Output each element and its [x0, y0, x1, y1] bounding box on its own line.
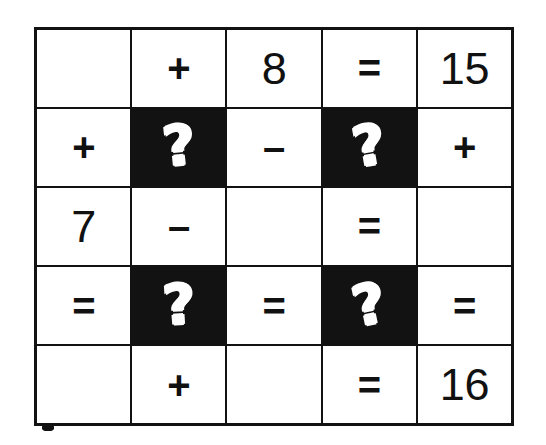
cell-content-r4c3: = [227, 267, 320, 344]
cell-content-r5c5: 16 [418, 346, 511, 423]
cell-content-r4c4: ? [323, 267, 416, 344]
cell-content-r2c5: + [418, 109, 511, 186]
cell-content-r2c3: – [227, 109, 320, 186]
grid-cell-r3c2[interactable]: – [131, 187, 226, 266]
cell-value-r1c3: 8 [262, 46, 287, 91]
grid-cell-r4c3[interactable]: = [226, 266, 321, 345]
cell-content-r2c2: ? [132, 109, 225, 186]
grid-row: + = 16 [36, 345, 513, 424]
grid-cell-r5c5[interactable]: 16 [417, 345, 513, 424]
grid-row: + ? – ? [36, 108, 513, 187]
grid-cell-r5c1[interactable] [36, 345, 132, 424]
grid-cell-r5c2[interactable]: + [131, 345, 226, 424]
cell-content-r5c1 [37, 346, 130, 423]
grid-cell-r2c1[interactable]: + [36, 108, 132, 187]
cell-value-r4c5: = [453, 286, 476, 326]
grid-row: + 8 = 15 [36, 29, 513, 108]
grid-cell-r3c5[interactable] [417, 187, 513, 266]
cell-content-r3c5 [418, 188, 511, 265]
cell-value-r5c5: 16 [440, 362, 489, 407]
cell-content-r3c4: = [323, 188, 416, 265]
cell-value-r1c2: + [167, 48, 190, 88]
cell-value-r2c3: – [263, 127, 285, 167]
cell-content-r4c1: = [37, 267, 130, 344]
cell-content-r4c2: ? [132, 267, 225, 344]
cell-content-r1c4: = [323, 30, 416, 107]
cell-content-r1c5: 15 [418, 30, 511, 107]
grid-cell-r4c1[interactable]: = [36, 266, 132, 345]
cell-content-r1c1 [37, 30, 130, 107]
grid-cell-r4c4-unknown[interactable]: ? [322, 266, 417, 345]
cell-content-r1c2: + [132, 30, 225, 107]
grid-cell-r4c2-unknown[interactable]: ? [131, 266, 226, 345]
grid-cell-r1c5[interactable]: 15 [417, 29, 513, 108]
grid-cell-r1c2[interactable]: + [131, 29, 226, 108]
grid-cell-r3c4[interactable]: = [322, 187, 417, 266]
grid-cell-r5c4[interactable]: = [322, 345, 417, 424]
grid-cell-r2c4-unknown[interactable]: ? [322, 108, 417, 187]
grid-cell-r5c3[interactable] [226, 345, 321, 424]
question-mark-icon: ? [347, 274, 390, 336]
cell-value-r5c4: = [358, 365, 381, 405]
cell-value-r3c2: – [168, 206, 190, 246]
grid-row: 7 – = [36, 187, 513, 266]
cell-content-r5c4: = [323, 346, 416, 423]
cell-value-r4c3: = [263, 286, 286, 326]
cell-value-r2c5: + [453, 127, 476, 167]
grid-cell-r1c3[interactable]: 8 [226, 29, 321, 108]
cell-value-r4c1: = [72, 286, 95, 326]
grid-cell-r2c3[interactable]: – [226, 108, 321, 187]
cell-value-r1c4: = [358, 48, 381, 88]
puzzle-grid-frame: + 8 = 15 [34, 27, 514, 426]
grid-cell-r2c5[interactable]: + [417, 108, 513, 187]
cell-content-r2c1: + [37, 109, 130, 186]
cell-value-r1c5: 15 [440, 46, 489, 91]
puzzle-grid: + 8 = 15 [34, 27, 514, 426]
cell-content-r5c3 [227, 346, 320, 423]
grid-cell-r1c1[interactable] [36, 29, 132, 108]
puzzle-grid-body: + 8 = 15 [36, 29, 513, 425]
cell-value-r3c4: = [358, 206, 381, 246]
cell-content-r5c2: + [132, 346, 225, 423]
grid-cell-r4c5[interactable]: = [417, 266, 513, 345]
cell-content-r3c2: – [132, 188, 225, 265]
grid-cell-r3c3[interactable] [226, 187, 321, 266]
cell-content-r4c5: = [418, 267, 511, 344]
question-mark-icon: ? [160, 117, 198, 176]
question-mark-icon: ? [161, 276, 197, 334]
grid-cell-r2c2-unknown[interactable]: ? [131, 108, 226, 187]
cell-content-r3c1: 7 [37, 188, 130, 265]
ink-blot-decoration [42, 424, 54, 431]
cell-content-r2c4: ? [323, 109, 416, 186]
cell-value-r2c1: + [72, 127, 95, 167]
puzzle-stage: + 8 = 15 [0, 0, 546, 445]
cell-value-r5c2: + [167, 365, 190, 405]
question-mark-icon: ? [348, 116, 390, 177]
grid-row: = ? = ? [36, 266, 513, 345]
grid-cell-r3c1[interactable]: 7 [36, 187, 132, 266]
cell-content-r1c3: 8 [227, 30, 320, 107]
cell-value-r3c1: 7 [71, 204, 96, 249]
cell-content-r3c3 [227, 188, 320, 265]
grid-cell-r1c4[interactable]: = [322, 29, 417, 108]
